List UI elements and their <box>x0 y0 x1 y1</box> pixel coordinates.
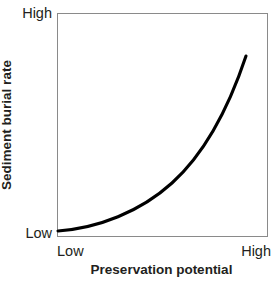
y-axis-tick-high: High <box>22 6 52 21</box>
x-axis-tick-high: High <box>241 244 271 259</box>
x-axis-tick-low: Low <box>57 244 84 259</box>
x-axis-title: Preservation potential <box>0 263 279 277</box>
y-axis-title: Sediment burial rate <box>0 60 14 190</box>
plot-area-frame <box>57 13 268 237</box>
chart-figure: High Low Low High Sediment burial rate P… <box>0 0 279 281</box>
y-axis-tick-low: Low <box>25 226 52 241</box>
